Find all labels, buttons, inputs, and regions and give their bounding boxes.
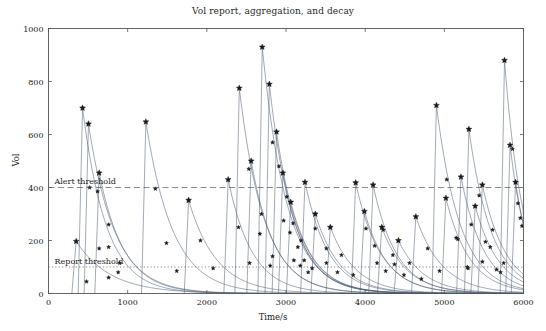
marker-event-9-2 xyxy=(271,254,275,258)
axes-frame xyxy=(49,29,524,294)
curve-event-29 xyxy=(478,185,524,294)
marker-event-19-1 xyxy=(373,244,377,248)
marker-event-7-2 xyxy=(248,261,252,265)
marker-event-27-2 xyxy=(488,245,492,249)
marker-event-29-2 xyxy=(502,261,506,265)
marker-event-1-1 xyxy=(85,279,89,283)
curve-event-19 xyxy=(360,211,523,293)
series-event-15 xyxy=(301,182,524,293)
plot-canvas: Alert thresholdReport threshold010002000… xyxy=(0,0,546,331)
curve-event-30 xyxy=(500,60,523,293)
marker-event-21-2 xyxy=(402,273,406,277)
ytick-label-400: 400 xyxy=(28,184,43,193)
data-markers xyxy=(73,44,524,283)
series-event-25 xyxy=(442,198,524,293)
series-event-19 xyxy=(360,211,523,293)
marker-event-28-2 xyxy=(495,268,499,272)
marker-event-16-1 xyxy=(324,246,328,250)
series-event-29 xyxy=(478,185,524,294)
curve-event-13 xyxy=(278,173,523,294)
series-event-14 xyxy=(286,202,523,293)
curve-event-17 xyxy=(326,227,524,293)
xtick-label-4000: 4000 xyxy=(355,298,375,307)
curve-event-15 xyxy=(301,182,524,293)
series-event-21 xyxy=(377,227,523,293)
x-axis-label: Time/s xyxy=(0,312,546,322)
series-event-17 xyxy=(326,227,524,293)
marker-event-12-3 xyxy=(306,270,310,274)
xtick-label-3000: 3000 xyxy=(276,298,296,307)
marker-event-3-3 xyxy=(116,270,120,274)
marker-event-15-1 xyxy=(313,226,317,230)
marker-event-18-2 xyxy=(375,261,379,265)
marker-event-30-1 xyxy=(510,147,514,151)
marker-event-5-2 xyxy=(164,241,168,245)
curve-event-14 xyxy=(286,202,523,293)
marker-event-17-1 xyxy=(339,253,343,257)
marker-event-8-1 xyxy=(247,167,251,171)
series-event-12 xyxy=(272,132,523,294)
series-event-4 xyxy=(95,173,524,294)
series-event-10 xyxy=(258,47,524,293)
marker-event-2-2 xyxy=(97,246,101,250)
xtick-label-5000: 5000 xyxy=(434,298,454,307)
marker-event-7-1 xyxy=(237,225,241,229)
curve-event-25 xyxy=(442,198,524,293)
y-axis-label: Vol xyxy=(11,130,21,190)
curve-event-21 xyxy=(377,227,523,293)
chart-figure: Vol report, aggregation, and decay Alert… xyxy=(0,0,546,331)
ytick-label-200: 200 xyxy=(28,237,43,246)
curve-event-12 xyxy=(272,132,523,294)
marker-event-8-2 xyxy=(258,232,262,236)
marker-event-4-1 xyxy=(107,223,111,227)
marker-event-10-3 xyxy=(292,258,296,262)
marker-event-3-2 xyxy=(107,245,111,249)
curve-event-11 xyxy=(265,84,523,293)
marker-event-10-2 xyxy=(282,219,286,223)
data-curves xyxy=(72,47,524,293)
curve-event-4 xyxy=(95,173,524,294)
series-event-13 xyxy=(278,173,523,294)
marker-event-11-1 xyxy=(277,164,281,168)
xtick-label-0: 0 xyxy=(46,298,51,307)
marker-event-18-1 xyxy=(364,226,368,230)
marker-event-26-2 xyxy=(480,260,484,264)
marker-event-16-2 xyxy=(335,270,339,274)
series-event-11 xyxy=(265,84,523,293)
marker-event-27-3 xyxy=(499,270,503,274)
curve-event-16 xyxy=(311,214,524,294)
marker-event-22-2 xyxy=(419,277,423,281)
ytick-label-800: 800 xyxy=(28,78,43,87)
xtick-label-1000: 1000 xyxy=(117,298,137,307)
series-event-18 xyxy=(351,183,523,294)
curve-event-1 xyxy=(72,241,524,293)
series-event-1 xyxy=(72,241,524,293)
marker-event-11-2 xyxy=(288,230,292,234)
marker-event-23-2 xyxy=(438,269,442,273)
series-event-30 xyxy=(500,60,523,293)
report-threshold-label: Report threshold xyxy=(55,257,124,266)
marker-event-13-2 xyxy=(302,258,306,262)
marker-event-2-3 xyxy=(107,276,111,280)
ytick-label-600: 600 xyxy=(28,131,43,140)
alert-threshold-label: Alert threshold xyxy=(54,177,116,186)
curve-event-10 xyxy=(258,47,524,293)
marker-event-12-2 xyxy=(296,245,300,249)
marker-event-6-1 xyxy=(199,238,203,242)
xtick-label-6000: 6000 xyxy=(513,298,533,307)
marker-event-5-3 xyxy=(175,269,179,273)
curve-event-18 xyxy=(351,183,523,294)
ytick-label-1000: 1000 xyxy=(23,25,43,34)
xtick-label-2000: 2000 xyxy=(197,298,217,307)
marker-event-20-2 xyxy=(392,262,396,266)
ytick-label-0: 0 xyxy=(38,290,43,299)
series-event-16 xyxy=(311,214,524,294)
marker-event-19-2 xyxy=(384,269,388,273)
